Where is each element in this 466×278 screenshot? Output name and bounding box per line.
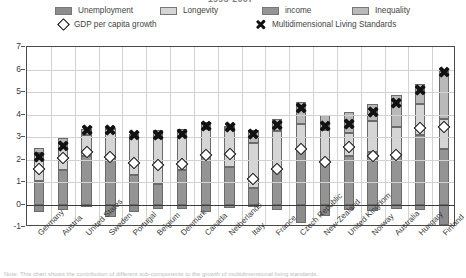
bar-segment-income: [439, 149, 449, 204]
vertical-gridline: [75, 47, 76, 225]
bar-segment-income: [177, 170, 187, 205]
legend-swatch-inequality: [352, 7, 369, 15]
zero-line: [27, 205, 454, 206]
vertical-gridline: [51, 47, 52, 225]
bar-segment-income: [320, 163, 330, 205]
bar-segment-longevity: [129, 136, 139, 175]
bar-segment-income: [34, 181, 44, 205]
bar-group[interactable]: [122, 47, 146, 225]
vertical-gridline: [242, 47, 243, 225]
y-axis-tick-mark: [21, 46, 25, 47]
bar-group[interactable]: [242, 47, 266, 225]
legend-label-income: income: [285, 6, 311, 15]
vertical-gridline: [194, 47, 195, 225]
bar-group[interactable]: [408, 47, 432, 225]
bar-segment-income: [58, 170, 68, 205]
legend-swatch-income: [262, 7, 279, 15]
vertical-gridline: [122, 47, 123, 225]
vertical-gridline: [146, 47, 147, 225]
bar-group[interactable]: [265, 47, 289, 225]
marker-multidimensional-living-standards: [390, 97, 402, 109]
y-axis-tick-mark: [21, 204, 25, 205]
chart-legend: Unemployment Longevity income Inequality…: [0, 5, 461, 37]
legend-label-multidimensional-living-standards: Multidimensional Living Standards: [272, 20, 396, 29]
bar-segment-income: [81, 156, 91, 204]
bar-group[interactable]: [51, 47, 75, 225]
marker-multidimensional-living-standards: [367, 106, 379, 118]
marker-multidimensional-living-standards: [271, 119, 283, 131]
vertical-gridline: [408, 47, 409, 225]
horizontal-gridline: [27, 137, 454, 138]
legend-item-multidimensional-living-standards: Multidimensional Living Standards: [255, 19, 396, 30]
y-axis: -101234567: [0, 40, 24, 230]
bar-segment-income: [272, 171, 282, 205]
vertical-gridline: [99, 47, 100, 225]
bar-group[interactable]: [432, 47, 456, 225]
y-axis-tick-mark: [21, 226, 25, 227]
bar-segment-inequality: [439, 71, 449, 119]
horizontal-gridline: [27, 182, 454, 183]
plot-area: -101234567 GermanyAustriaUnited StatesSw…: [0, 40, 461, 278]
chart-title: 1995-2007: [0, 0, 461, 4]
marker-multidimensional-living-standards: [438, 66, 450, 78]
vertical-gridline: [265, 47, 266, 225]
y-axis-tick-mark: [21, 136, 25, 137]
legend-swatch-unemployment: [55, 7, 72, 15]
chart-note: Note: This chart shows the contribution …: [4, 271, 459, 277]
bar-segment-income: [153, 184, 163, 204]
bar-group[interactable]: [170, 47, 194, 225]
bar-segment-income: [344, 156, 354, 204]
diamond-icon: [57, 18, 70, 31]
y-axis-tick-mark: [21, 114, 25, 115]
marker-multidimensional-living-standards: [128, 129, 140, 141]
legend-item-longevity: Longevity: [160, 5, 218, 16]
marker-multidimensional-living-standards: [343, 118, 355, 130]
y-axis-tick-label: -1: [13, 222, 21, 231]
marker-multidimensional-living-standards: [319, 120, 331, 132]
legend-label-longevity: Longevity: [183, 6, 218, 15]
bar-segment-income: [391, 155, 401, 205]
bar-group[interactable]: [194, 47, 218, 225]
horizontal-gridline: [27, 160, 454, 161]
vertical-gridline: [432, 47, 433, 225]
vertical-gridline: [218, 47, 219, 225]
vertical-gridline: [361, 47, 362, 225]
bar-segment-income: [296, 148, 306, 204]
bar-group[interactable]: [75, 47, 99, 225]
bar-group[interactable]: [289, 47, 313, 225]
cross-icon: [255, 19, 266, 30]
legend-item-inequality: Inequality: [352, 5, 410, 16]
y-axis-tick-mark: [21, 159, 25, 160]
legend-label-inequality: Inequality: [375, 6, 410, 15]
bar-group[interactable]: [27, 47, 51, 225]
legend-item-income: income: [262, 5, 311, 16]
marker-multidimensional-living-standards: [224, 121, 236, 133]
marker-multidimensional-living-standards: [176, 128, 188, 140]
bar-segment-income: [201, 155, 211, 205]
marker-multidimensional-living-standards: [295, 102, 307, 114]
marker-multidimensional-living-standards: [247, 128, 259, 140]
marker-multidimensional-living-standards: [200, 120, 212, 132]
vertical-gridline: [289, 47, 290, 225]
marker-multidimensional-living-standards: [152, 129, 164, 141]
bar-segment-income: [129, 175, 139, 204]
marker-multidimensional-living-standards: [33, 151, 45, 163]
y-axis-tick-mark: [21, 181, 25, 182]
bar-group[interactable]: [218, 47, 242, 225]
marker-multidimensional-living-standards: [57, 140, 69, 152]
vertical-gridline: [170, 47, 171, 225]
legend-swatch-longevity: [160, 7, 177, 15]
vertical-gridline: [313, 47, 314, 225]
legend-item-gdp-per-capita-growth: GDP per capita growth: [55, 19, 157, 30]
marker-multidimensional-living-standards: [104, 124, 116, 136]
horizontal-gridline: [27, 115, 454, 116]
legend-label-unemployment: Unemployment: [78, 6, 133, 15]
marker-multidimensional-living-standards: [81, 124, 93, 136]
legend-item-unemployment: Unemployment: [55, 5, 133, 16]
horizontal-gridline: [27, 92, 454, 93]
legend-label-gdp-per-capita-growth: GDP per capita growth: [74, 20, 157, 29]
bar-group[interactable]: [146, 47, 170, 225]
bar-segment-income: [105, 156, 115, 204]
bar-segment-income: [415, 135, 425, 205]
y-axis-tick-mark: [21, 69, 25, 70]
